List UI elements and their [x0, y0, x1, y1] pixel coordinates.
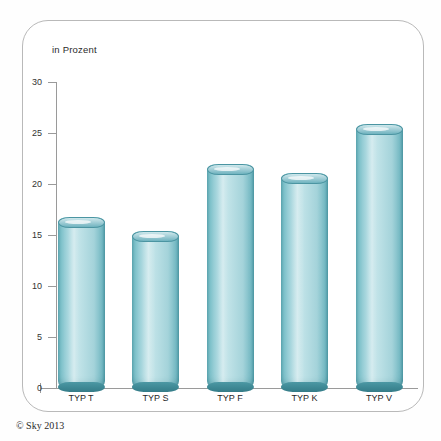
bar-typ-k[interactable]: [281, 173, 328, 388]
bar-top-cap: [207, 164, 254, 175]
bar-typ-s[interactable]: [132, 231, 179, 388]
bar-gloss: [217, 172, 229, 382]
y-tick-0: [48, 388, 57, 389]
bar-gloss: [291, 181, 303, 382]
bar-top-cap: [281, 173, 328, 184]
x-tick-label-4: TYP V: [339, 393, 419, 403]
bar-typ-f[interactable]: [207, 164, 254, 388]
axis-unit-label: in Prozent: [52, 44, 97, 55]
y-tick-label-30: 30: [20, 77, 42, 87]
bar-bottom-cap: [281, 382, 328, 392]
bar-bottom-cap: [356, 382, 403, 392]
x-tick-label-0: TYP T: [41, 393, 121, 403]
plot-area: in Prozent 30 25 20 15 10 5 0: [0, 0, 441, 441]
y-tick-label-20: 20: [20, 179, 42, 189]
y-tick-5: [48, 337, 57, 338]
bar-top-gloss: [214, 167, 240, 171]
bar-gloss: [142, 239, 154, 382]
y-tick-label-25: 25: [20, 128, 42, 138]
bar-top-gloss: [288, 176, 314, 180]
bar-top-gloss: [65, 220, 91, 224]
copyright-notice: © Sky 2013: [16, 420, 64, 431]
bar-gloss: [366, 132, 378, 382]
y-tick-20: [48, 184, 57, 185]
y-tick-label-0: 0: [20, 383, 42, 393]
y-tick-label-10: 10: [20, 281, 42, 291]
x-tick-label-2: TYP F: [190, 393, 270, 403]
bar-top-cap: [356, 124, 403, 135]
y-tick-30: [48, 82, 57, 83]
chart-figure: in Prozent 30 25 20 15 10 5 0: [0, 0, 441, 441]
y-tick-10: [48, 286, 57, 287]
y-tick-15: [48, 235, 57, 236]
y-tick-25: [48, 133, 57, 134]
bar-bottom-cap: [207, 382, 254, 392]
y-tick-label-5: 5: [20, 332, 42, 342]
bar-typ-t[interactable]: [58, 217, 105, 388]
bar-top-gloss: [139, 234, 165, 238]
bar-bottom-cap: [58, 382, 105, 392]
bar-top-gloss: [363, 127, 389, 131]
bar-top-cap: [132, 231, 179, 242]
bar-typ-v[interactable]: [356, 124, 403, 388]
y-tick-label-15: 15: [20, 230, 42, 240]
x-tick-label-3: TYP K: [265, 393, 345, 403]
bar-gloss: [68, 225, 80, 382]
bar-bottom-cap: [132, 382, 179, 392]
bar-top-cap: [58, 217, 105, 228]
x-tick-label-1: TYP S: [116, 393, 196, 403]
